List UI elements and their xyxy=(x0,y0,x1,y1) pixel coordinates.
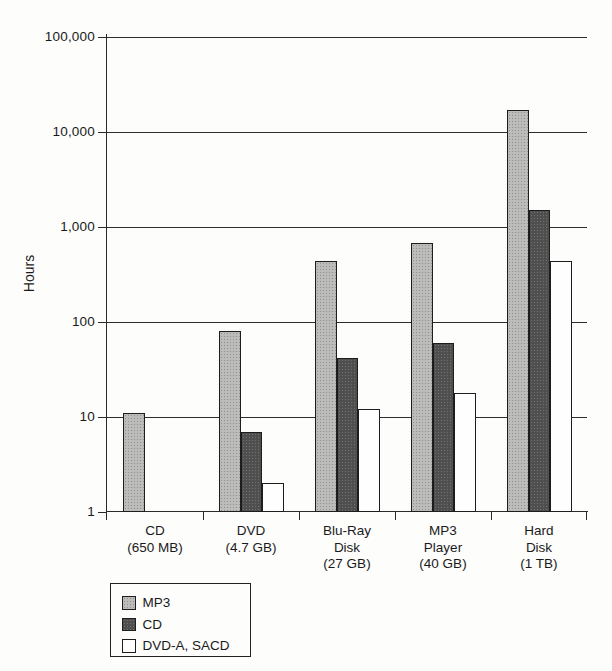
bar-cd-group-2 xyxy=(337,358,359,512)
y-tick-10,000 xyxy=(98,132,107,133)
y-tick-100,000 xyxy=(98,37,107,38)
bar-mp3-group-2 xyxy=(315,261,337,512)
x-tick-5 xyxy=(586,511,587,520)
y-tick-label-1,000: 1,000 xyxy=(0,219,95,234)
x-tick-2 xyxy=(299,511,300,520)
legend-item-dvda-sacd: DVD-A, SACD xyxy=(122,635,250,657)
legend-item-mp3: MP3 xyxy=(122,592,250,614)
x-tick-3 xyxy=(395,511,396,520)
y-tick-label-10,000: 10,000 xyxy=(0,124,95,139)
bar-mp3-group-1 xyxy=(219,331,241,512)
y-tick-1 xyxy=(98,512,107,513)
category-label-2: Blu-RayDisk(27 GB) xyxy=(299,523,395,573)
gridline-100,000 xyxy=(107,37,587,38)
category-label-3: MP3Player(40 GB) xyxy=(395,523,491,573)
bar-mp3-group-0 xyxy=(123,413,145,512)
bar-cd-group-3 xyxy=(433,343,455,512)
y-tick-label-100,000: 100,000 xyxy=(0,29,95,44)
y-axis-line xyxy=(106,34,107,520)
bar-dvd-a-sacd-group-3 xyxy=(454,393,476,512)
plot-area: 1101001,00010,000100,000CD(650 MB)DVD(4.… xyxy=(107,37,587,512)
x-tick-1 xyxy=(203,511,204,520)
legend: MP3 CD DVD-A, SACD xyxy=(110,583,251,657)
category-label-1: DVD(4.7 GB) xyxy=(203,523,299,556)
x-tick-4 xyxy=(491,511,492,520)
category-label-0: CD(650 MB) xyxy=(107,523,203,556)
bar-mp3-group-3 xyxy=(411,243,433,512)
legend-label-mp3: MP3 xyxy=(143,595,171,610)
chart: Hours 1101001,00010,000100,000CD(650 MB)… xyxy=(0,0,612,671)
bar-dvd-a-sacd-group-4 xyxy=(550,261,572,512)
legend-label-dvda-sacd: DVD-A, SACD xyxy=(143,638,230,653)
bar-dvd-a-sacd-group-2 xyxy=(358,409,380,512)
bar-cd-group-1 xyxy=(241,432,263,512)
bar-cd-group-4 xyxy=(529,210,551,512)
y-tick-1,000 xyxy=(98,227,107,228)
y-tick-label-1: 1 xyxy=(0,504,95,519)
y-axis-title: Hours xyxy=(21,243,38,305)
y-tick-100 xyxy=(98,322,107,323)
category-label-4: HardDisk(1 TB) xyxy=(491,523,587,573)
legend-label-cd: CD xyxy=(143,617,163,632)
y-tick-label-10: 10 xyxy=(0,409,95,424)
legend-swatch-dvda-sacd xyxy=(122,639,136,653)
bar-mp3-group-4 xyxy=(507,110,529,512)
legend-swatch-mp3 xyxy=(122,596,136,610)
legend-swatch-cd xyxy=(122,618,136,632)
bar-dvd-a-sacd-group-1 xyxy=(262,483,284,512)
y-tick-10 xyxy=(98,417,107,418)
legend-item-cd: CD xyxy=(122,614,250,636)
y-tick-label-100: 100 xyxy=(0,314,95,329)
